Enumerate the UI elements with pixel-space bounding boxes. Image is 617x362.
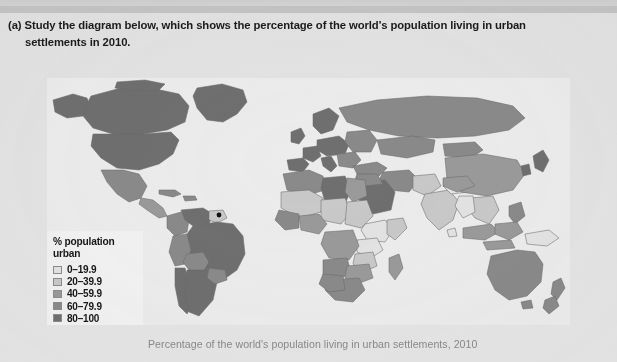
- legend-swatch: [53, 278, 62, 286]
- legend-swatch: [53, 302, 62, 310]
- question-prompt: (a) Study the diagram below, which shows…: [8, 17, 608, 50]
- legend-item: 40–59.9: [53, 288, 139, 300]
- legend-items: 0–19.920–39.940–59.960–79.980–100: [53, 264, 139, 324]
- legend-item: 0–19.9: [53, 264, 139, 276]
- prompt-line-1: (a) Study the diagram below, which shows…: [8, 17, 608, 34]
- legend-item: 80–100: [53, 313, 139, 325]
- region-sri-lanka: [447, 228, 457, 237]
- page-top-strip: [0, 6, 617, 13]
- legend-item: 60–79.9: [53, 300, 139, 312]
- legend-item: 20–39.9: [53, 276, 139, 288]
- legend-label: 20–39.9: [67, 276, 102, 287]
- legend-swatch: [53, 314, 62, 322]
- prompt-line-2: settlements in 2010.: [8, 34, 608, 51]
- map-legend: % population urban 0–19.920–39.940–59.96…: [47, 231, 143, 325]
- legend-title-line-2: urban: [53, 248, 80, 259]
- region-korea: [521, 164, 531, 176]
- location-marker-dot: [217, 213, 222, 218]
- legend-title-line-1: % population: [53, 236, 115, 247]
- legend-swatch: [53, 290, 62, 298]
- region-canada: [83, 88, 189, 134]
- legend-label: 80–100: [67, 313, 99, 324]
- legend-label: 40–59.9: [67, 288, 102, 299]
- region-indonesia-java: [483, 240, 515, 250]
- legend-label: 0–19.9: [67, 264, 96, 275]
- legend-label: 60–79.9: [67, 301, 102, 312]
- region-hispaniola: [183, 196, 197, 201]
- legend-swatch: [53, 266, 62, 274]
- figure-caption: Percentage of the world's population liv…: [148, 338, 477, 350]
- legend-title: % population urban: [53, 236, 139, 261]
